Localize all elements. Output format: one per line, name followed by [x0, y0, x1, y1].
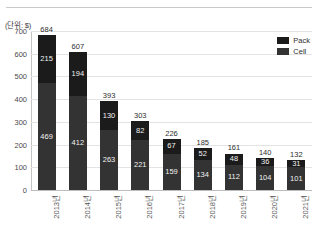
bar-total-label: 684: [40, 25, 53, 34]
bar-group[interactable]: 22182: [131, 121, 149, 190]
bar-segment-value-label: 101: [287, 175, 305, 183]
legend-color-swatch: [277, 37, 289, 44]
bar-segment-value-label: 67: [163, 143, 181, 151]
bar-total-label: 185: [196, 138, 209, 147]
bar-segment-value-label: 221: [131, 161, 149, 169]
bar-segment-cell[interactable]: 104: [256, 166, 274, 190]
bar-segment-cell[interactable]: 221: [131, 140, 149, 190]
gridline: [31, 31, 312, 32]
x-axis-tick-label: 2017년: [175, 195, 186, 219]
bar-group[interactable]: 15967: [163, 139, 181, 190]
stacked-bar-chart: (단위: $) 0100200300400500600700 469215684…: [0, 0, 318, 234]
y-axis-tick-label: 0: [23, 186, 27, 195]
bar-segment-value-label: 130: [100, 112, 118, 120]
bar-segment-pack[interactable]: 130: [100, 101, 118, 131]
y-axis-tick-label: 100: [14, 163, 27, 172]
y-axis-tick-label: 200: [14, 140, 27, 149]
x-axis-tick-label: 2016년: [143, 195, 154, 219]
bar-segment-cell[interactable]: 112: [225, 165, 243, 190]
bar-segment-cell[interactable]: 263: [100, 130, 118, 190]
bar-group[interactable]: 469215: [38, 35, 56, 190]
bar-group[interactable]: 13452: [194, 148, 212, 190]
bar-group[interactable]: 263130: [100, 101, 118, 190]
bar-total-label: 226: [165, 129, 178, 138]
legend-item[interactable]: Pack: [277, 37, 310, 45]
x-axis-tick-label: 2018년: [206, 195, 217, 219]
bar-segment-pack[interactable]: 36: [256, 158, 274, 166]
bar-group[interactable]: 10131: [287, 160, 305, 190]
bar-segment-value-label: 36: [256, 159, 274, 167]
bar-segment-pack[interactable]: 67: [163, 139, 181, 154]
gridline: [31, 190, 312, 191]
y-axis-tick-label: 400: [14, 95, 27, 104]
bar-total-label: 161: [228, 143, 241, 152]
bar-segment-pack[interactable]: 82: [131, 121, 149, 140]
bar-group[interactable]: 412194: [69, 52, 87, 190]
bar-total-label: 140: [259, 148, 272, 157]
bar-segment-pack[interactable]: 31: [287, 160, 305, 167]
bar-total-label: 132: [290, 150, 303, 159]
bar-segment-value-label: 134: [194, 171, 212, 179]
x-axis-tick-label: 2021년: [299, 195, 310, 219]
bar-total-label: 607: [72, 42, 85, 51]
bar-group[interactable]: 10436: [256, 158, 274, 190]
bar-segment-value-label: 82: [131, 127, 149, 135]
bar-total-label: 393: [103, 91, 116, 100]
x-axis-tick-label: 2020년: [268, 195, 279, 219]
bar-segment-value-label: 194: [69, 71, 87, 79]
bar-segment-value-label: 469: [38, 133, 56, 141]
plot-area: 0100200300400500600700 46921568441219460…: [31, 31, 312, 190]
x-axis-tick-label: 2015년: [112, 195, 123, 219]
y-axis-tick-label: 600: [14, 49, 27, 58]
x-axis-tick-label: 2014년: [81, 195, 92, 219]
legend-item-label: Cell: [293, 48, 306, 56]
y-axis-tick-label: 700: [14, 27, 27, 36]
bar-segment-cell[interactable]: 134: [194, 160, 212, 190]
bar-segment-value-label: 104: [256, 174, 274, 182]
bar-segment-value-label: 263: [100, 156, 118, 164]
bar-segment-value-label: 112: [225, 174, 243, 182]
chart-legend: PackCell: [277, 37, 310, 55]
bar-segment-pack[interactable]: 48: [225, 154, 243, 165]
bar-segment-value-label: 159: [163, 168, 181, 176]
bar-segment-cell[interactable]: 101: [287, 167, 305, 190]
y-axis-tick-label: 300: [14, 117, 27, 126]
legend-item[interactable]: Cell: [277, 48, 310, 56]
bar-segment-value-label: 48: [225, 155, 243, 163]
bar-segment-value-label: 52: [194, 150, 212, 158]
bar-segment-value-label: 412: [69, 139, 87, 147]
bar-total-label: 303: [134, 111, 147, 120]
bar-group[interactable]: 11248: [225, 153, 243, 190]
bar-segment-value-label: 215: [38, 55, 56, 63]
bar-segment-value-label: 31: [287, 160, 305, 168]
y-axis-tick-label: 500: [14, 72, 27, 81]
bar-segment-pack[interactable]: 215: [38, 35, 56, 84]
x-axis-tick-label: 2019년: [237, 195, 248, 219]
legend-item-label: Pack: [293, 37, 310, 45]
bar-segment-pack[interactable]: 52: [194, 148, 212, 160]
bar-segment-pack[interactable]: 194: [69, 52, 87, 96]
x-axis-tick-label: 2013년: [50, 195, 61, 219]
bar-segment-cell[interactable]: 469: [38, 83, 56, 190]
bar-segment-cell[interactable]: 412: [69, 96, 87, 190]
bar-segment-cell[interactable]: 159: [163, 154, 181, 190]
legend-color-swatch: [277, 48, 289, 55]
